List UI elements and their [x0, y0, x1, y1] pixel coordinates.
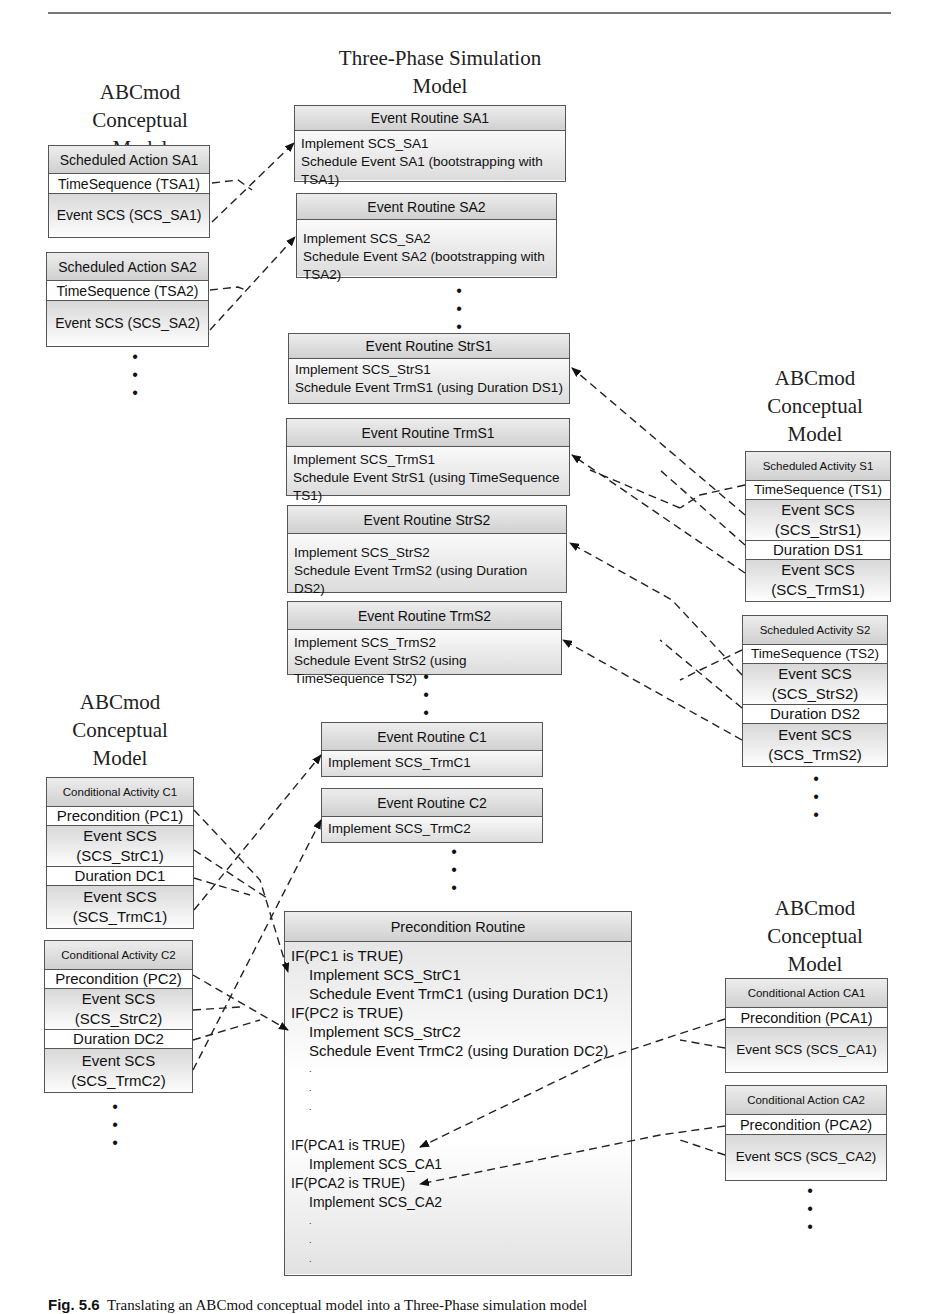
routine-body: Implement SCS_TrmC2 — [322, 817, 542, 842]
pre-line: IF(PC2 is TRUE) — [291, 1003, 625, 1022]
event-routine-trms2: Event Routine TrmS2 Implement SCS_TrmS2S… — [287, 601, 562, 675]
box-row: Event SCS(SCS_TrmC1) — [47, 886, 193, 928]
scheduled-activity-s2: Scheduled Activity S2 TimeSequence (TS2)… — [742, 615, 888, 767]
box-title: Event Routine TrmS2 — [288, 602, 561, 630]
heading-abcmod-right-mid: ABCmodConceptualModel — [735, 364, 895, 448]
box-row: Duration DC1 — [47, 867, 193, 886]
event-routine-c2: Event Routine C2 Implement SCS_TrmC2 — [321, 788, 543, 843]
box-row: Event SCS (SCS_SA2) — [47, 301, 208, 345]
box-title: Event Routine StrS1 — [289, 334, 569, 359]
box-title: Scheduled Activity S2 — [743, 616, 887, 645]
scheduled-activity-s1: Scheduled Activity S1 TimeSequence (TS1)… — [745, 451, 891, 602]
pre-line: IF(PC1 is TRUE) — [291, 946, 625, 965]
box-row: TimeSequence (TSA2) — [47, 281, 208, 301]
box-row: Duration DS1 — [746, 541, 890, 560]
box-row: Precondition (PCA1) — [726, 1008, 887, 1028]
conditional-action-ca1: Conditional Action CA1 Precondition (PCA… — [725, 978, 888, 1073]
box-row: Event SCS (SCS_CA2) — [726, 1135, 886, 1179]
pre-line: IF(PCA2 is TRUE) — [291, 1174, 625, 1193]
box-title: Event Routine StrS2 — [288, 506, 566, 534]
ellipsis-right-mid: ••• — [811, 770, 821, 824]
box-title: Event Routine TrmS1 — [287, 419, 569, 447]
event-routine-c1: Event Routine C1 Implement SCS_TrmC1 — [321, 722, 543, 777]
ellipsis-routines-3: ••• — [449, 843, 459, 897]
box-row: Event SCS(SCS_TrmC2) — [45, 1049, 192, 1092]
routine-body: Implement SCS_TrmC1 — [322, 751, 542, 776]
routine-body: Implement SCS_SA2Schedule Event SA2 (boo… — [297, 220, 556, 276]
box-title: Event Routine C1 — [322, 723, 542, 751]
pre-line: Implement SCS_StrC1 — [291, 965, 625, 984]
box-title: Conditional Activity C2 — [45, 941, 192, 970]
ellipsis-left-bottom: ••• — [110, 1098, 120, 1152]
box-title: Precondition Routine — [285, 912, 631, 942]
box-row: TimeSequence (TS1) — [746, 481, 890, 500]
heading-abcmod-right-bottom: ABCmodConceptualModel — [735, 894, 895, 978]
box-row: Event SCS (SCS_SA1) — [49, 194, 209, 236]
pre-line: . — [291, 1212, 625, 1231]
event-routine-strs2: Event Routine StrS2 Implement SCS_StrS2S… — [287, 505, 567, 593]
heading-abcmod-left-bottom: ABCmodConceptualModel — [40, 688, 200, 772]
ellipsis-routines-2: ••• — [421, 668, 431, 722]
conditional-activity-c1: Conditional Activity C1 Precondition (PC… — [46, 777, 194, 929]
event-routine-sa2: Event Routine SA2 Implement SCS_SA2Sched… — [296, 193, 557, 278]
box-title: Scheduled Activity S1 — [746, 452, 890, 481]
pre-line: . — [291, 1079, 625, 1098]
box-row: Event SCS(SCS_StrS2) — [743, 664, 887, 705]
event-routine-sa1: Event Routine SA1 Implement SCS_SA1Sched… — [294, 105, 566, 182]
routine-body: Implement SCS_StrS2Schedule Event TrmS2 … — [288, 534, 566, 592]
pre-line: . — [291, 1250, 625, 1269]
box-row: Precondition (PC1) — [47, 807, 193, 826]
box-title: Event Routine SA1 — [295, 106, 565, 131]
conditional-activity-c2: Conditional Activity C2 Precondition (PC… — [44, 940, 193, 1093]
routine-body: IF(PC1 is TRUE) Implement SCS_StrC1 Sche… — [285, 942, 631, 1274]
box-row: Event SCS(SCS_StrS1) — [746, 500, 890, 541]
event-routine-strs1: Event Routine StrS1 Implement SCS_StrS1S… — [288, 333, 570, 404]
pre-line: . — [291, 1098, 625, 1117]
routine-body: Implement SCS_TrmS1Schedule Event StrS1 … — [287, 447, 569, 495]
pre-line: Schedule Event TrmC2 (using Duration DC2… — [291, 1041, 625, 1060]
box-title: Conditional Activity C1 — [47, 778, 193, 807]
conditional-action-ca2: Conditional Action CA2 Precondition (PCA… — [725, 1085, 887, 1181]
box-title: Event Routine SA2 — [297, 194, 556, 220]
scheduled-action-sa1: Scheduled Action SA1 TimeSequence (TSA1)… — [48, 145, 210, 238]
pre-line: IF(PCA1 is TRUE) — [291, 1136, 625, 1155]
routine-body: Implement SCS_StrS1Schedule Event TrmS1 … — [289, 359, 569, 403]
box-title: Conditional Action CA2 — [726, 1086, 886, 1115]
box-row: Duration DS2 — [743, 705, 887, 724]
pre-line-spacer — [291, 1117, 625, 1136]
box-row: TimeSequence (TSA1) — [49, 174, 209, 194]
pre-line: Implement SCS_StrC2 — [291, 1022, 625, 1041]
scheduled-action-sa2: Scheduled Action SA2 TimeSequence (TSA2)… — [46, 252, 209, 347]
page-header-rule — [48, 12, 891, 14]
ellipsis-right-bottom: ••• — [805, 1182, 815, 1236]
box-row: Event SCS(SCS_StrC2) — [45, 989, 192, 1030]
box-row: Precondition (PCA2) — [726, 1115, 886, 1135]
box-row: Duration DC2 — [45, 1030, 192, 1049]
box-row: Precondition (PC2) — [45, 970, 192, 989]
figure-caption: Fig. 5.6 Translating an ABCmod conceptua… — [48, 1296, 587, 1314]
event-routine-trms1: Event Routine TrmS1 Implement SCS_TrmS1S… — [286, 418, 570, 496]
heading-three-phase-model: Three-Phase SimulationModel — [290, 44, 590, 100]
box-title: Scheduled Action SA2 — [47, 253, 208, 281]
pre-line: Implement SCS_CA2 — [291, 1193, 625, 1212]
precondition-routine: Precondition Routine IF(PC1 is TRUE) Imp… — [284, 911, 632, 1276]
box-title: Event Routine C2 — [322, 789, 542, 817]
box-row: Event SCS(SCS_TrmS1) — [746, 560, 890, 600]
box-row: TimeSequence (TS2) — [743, 645, 887, 664]
routine-body: Implement SCS_SA1Schedule Event SA1 (boo… — [295, 131, 565, 180]
pre-line: Schedule Event TrmC1 (using Duration DC1… — [291, 984, 625, 1003]
box-title: Conditional Action CA1 — [726, 979, 887, 1008]
ellipsis-left-top: ••• — [130, 348, 140, 402]
pre-line: . — [291, 1060, 625, 1079]
box-row: Event SCS(SCS_TrmS2) — [743, 724, 887, 766]
box-row: Event SCS (SCS_CA1) — [726, 1028, 887, 1071]
ellipsis-routines-1: ••• — [454, 282, 464, 336]
box-title: Scheduled Action SA1 — [49, 146, 209, 174]
pre-line: . — [291, 1231, 625, 1250]
box-row: Event SCS(SCS_StrC1) — [47, 826, 193, 867]
pre-line: Implement SCS_CA1 — [291, 1155, 625, 1174]
